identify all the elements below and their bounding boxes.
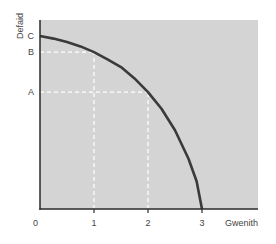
x-tick-label: 1: [91, 218, 96, 228]
x-ticks: 0123: [33, 209, 205, 228]
y-tick-label: C: [28, 31, 35, 41]
x-axis-title: Gwenith: [225, 218, 258, 228]
y-axis-title: Defaid: [15, 13, 25, 39]
y-tick-label: A: [28, 87, 34, 97]
x-tick-label: 2: [145, 218, 150, 228]
y-tick-label: B: [28, 47, 34, 57]
x-tick-label: 3: [199, 218, 204, 228]
y-ticks: ABC: [28, 31, 35, 97]
x-tick-label: 0: [33, 218, 38, 228]
ppf-chart: 0123 ABC Defaid Gwenith: [0, 0, 276, 244]
plot-background: [40, 20, 258, 209]
